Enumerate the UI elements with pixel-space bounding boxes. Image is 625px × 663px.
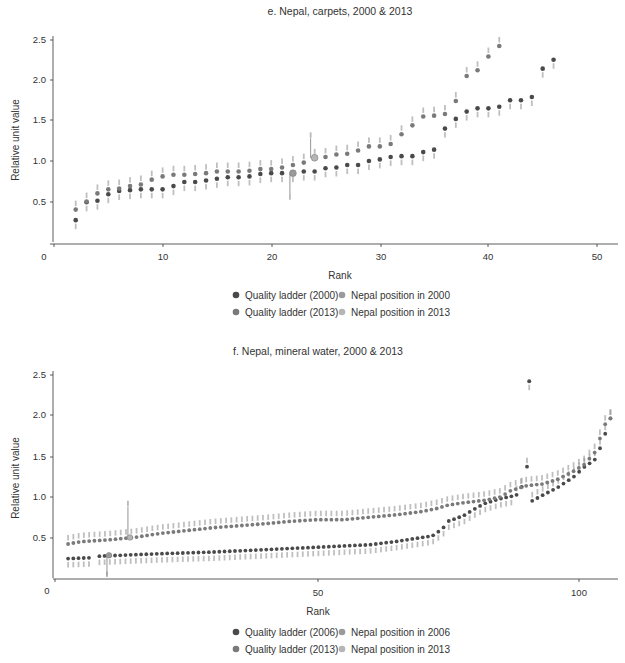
data-point (431, 533, 435, 537)
data-point (457, 515, 461, 519)
data-point (367, 159, 372, 164)
data-point (269, 167, 274, 172)
data-point (95, 191, 100, 196)
data-point (503, 492, 507, 496)
data-point (356, 148, 361, 153)
data-point (399, 154, 404, 159)
data-point (486, 54, 491, 59)
legend-ladder-2006: Quality ladder (2006) (245, 627, 338, 638)
data-point (329, 518, 333, 522)
data-point (219, 525, 223, 529)
data-point (87, 539, 91, 543)
y-tick-1.0: 1.0 (33, 155, 46, 166)
data-point (165, 552, 169, 556)
data-point (322, 545, 326, 549)
data-point (204, 178, 209, 183)
data-point (566, 472, 570, 476)
data-point (82, 556, 86, 560)
svg-text:40: 40 (483, 251, 494, 262)
data-point (270, 547, 274, 551)
data-point (541, 493, 545, 497)
data-point (119, 537, 123, 541)
data-point (156, 532, 160, 536)
svg-text:0: 0 (44, 585, 49, 596)
chart-f-y-axis: 2.5 2.0 1.5 1.0 0.5 Relative unit value (10, 369, 53, 578)
data-point (212, 550, 216, 554)
data-point (124, 553, 128, 557)
data-point (139, 182, 144, 187)
data-point (387, 514, 391, 518)
chart-e-x-axis: 0 10 20 30 40 50 Rank (41, 244, 618, 281)
data-point (77, 540, 81, 544)
data-point (181, 551, 185, 555)
data-point (361, 516, 365, 520)
data-point (530, 95, 535, 100)
data-point (193, 172, 198, 177)
legend-ladder-2013: Quality ladder (2013) (245, 307, 338, 318)
data-point (587, 457, 591, 461)
data-point (598, 446, 602, 450)
data-point (477, 499, 481, 503)
data-point (103, 538, 107, 542)
data-point (369, 543, 373, 547)
data-point (577, 466, 581, 470)
data-point (114, 537, 118, 541)
data-point (319, 518, 323, 522)
legend-nepal-2013: Nepal position in 2013 (351, 644, 450, 655)
svg-text:2.5: 2.5 (33, 369, 46, 380)
data-point (432, 113, 437, 118)
data-point (398, 512, 402, 516)
data-point (103, 554, 107, 558)
data-point (160, 174, 165, 179)
legend-dot-ladder-2013 (233, 646, 240, 653)
data-point (556, 485, 560, 489)
data-point (519, 98, 524, 103)
data-point (235, 524, 239, 528)
chart-f: f. Nepal, mineral water, 2000 & 2013 2.5… (10, 345, 618, 655)
data-point (504, 496, 508, 500)
data-point (410, 154, 415, 159)
data-point (256, 522, 260, 526)
data-point (160, 552, 164, 556)
data-point (382, 514, 386, 518)
data-point (145, 534, 149, 538)
data-point (84, 199, 89, 204)
data-point (287, 520, 291, 524)
data-point (377, 514, 381, 518)
data-point (203, 527, 207, 531)
data-point (593, 451, 597, 455)
data-point (301, 160, 306, 165)
data-point (238, 549, 242, 553)
data-point (546, 491, 550, 495)
data-point (191, 551, 195, 555)
data-point (582, 463, 586, 467)
y-tick-1.5: 1.5 (33, 114, 46, 125)
data-point (577, 470, 581, 474)
data-point (461, 501, 465, 505)
data-point (432, 147, 437, 152)
data-point (182, 529, 186, 533)
data-point (280, 171, 285, 176)
data-point (170, 551, 174, 555)
data-point (247, 174, 252, 179)
nepal-position-marker (127, 535, 133, 541)
data-point (172, 530, 176, 534)
data-point (108, 538, 112, 542)
data-point (140, 534, 144, 538)
data-point (225, 169, 230, 174)
data-point (410, 123, 415, 128)
data-point (204, 171, 209, 176)
data-point (551, 488, 555, 492)
data-point (134, 553, 138, 557)
data-point (478, 504, 482, 508)
data-point (334, 152, 339, 157)
data-point (144, 552, 148, 556)
data-point (540, 66, 545, 71)
data-point (317, 545, 321, 549)
data-point (186, 551, 190, 555)
data-point (323, 155, 328, 160)
data-point (106, 187, 111, 192)
data-point (198, 527, 202, 531)
data-point (301, 169, 306, 174)
data-point (454, 99, 459, 104)
